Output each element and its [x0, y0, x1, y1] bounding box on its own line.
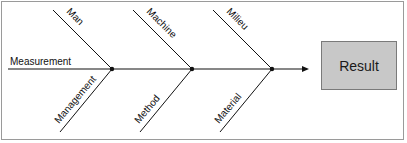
- label-milieu: Milieu: [225, 6, 251, 32]
- label-method: Method: [132, 93, 162, 126]
- result-label: Result: [339, 58, 379, 74]
- result-box: Result: [321, 41, 397, 90]
- label-machine: Machine: [145, 6, 180, 41]
- label-material: Material: [212, 91, 243, 125]
- label-man: Man: [65, 6, 87, 28]
- label-measurement: Measurement: [10, 56, 71, 67]
- arrowhead-icon: [302, 66, 309, 72]
- label-management: Management: [52, 73, 98, 125]
